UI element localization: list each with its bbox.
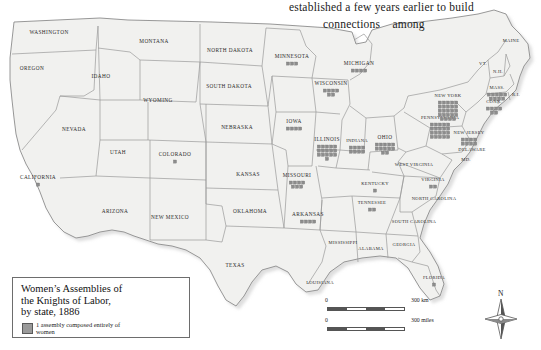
scale-km-label: 300 km [411,297,429,303]
assembly-marker [495,111,498,114]
assembly-marker [434,135,437,138]
assembly-marker [173,160,176,163]
assembly-marker [486,107,489,110]
assembly-marker [434,185,437,188]
legend-swatch [22,323,33,334]
assembly-marker [37,183,40,186]
state-label: N.H. [493,69,503,74]
assembly-markers [173,160,176,163]
state-mississippi: MISSISSIPPI [329,240,358,245]
assembly-marker [455,101,458,104]
assembly-marker [336,89,339,92]
assembly-marker [325,157,328,160]
scale-bar-km-bar [327,307,405,311]
assembly-marker [330,149,333,152]
state-louisiana: LOUISIANA [306,280,334,285]
assembly-marker [309,220,312,223]
assembly-marker [325,149,328,152]
assembly-marker [446,109,449,112]
assembly-marker [286,127,289,130]
assembly-marker [379,143,382,146]
assembly-marker [465,142,468,145]
assembly-marker [375,147,378,150]
assembly-marker [300,220,303,223]
state-label: ARIZONA [102,208,129,214]
state-label: FLORIDA [423,275,445,280]
assembly-marker [327,89,330,92]
assembly-marker [330,145,333,148]
assembly-marker [368,208,371,211]
state-label: MINNESOTA [275,53,309,59]
caption-line-1: established a few years earlier to build [289,1,474,13]
assembly-marker [286,62,289,65]
state-label: COLORADO [159,151,192,157]
state-label: R.I. [512,92,520,97]
state-label: WYOMING [143,97,173,103]
assembly-marker [353,146,356,149]
assembly-marker [295,127,298,130]
state-label: NORTH CAROLINA [412,196,457,201]
assembly-marker [321,153,324,156]
state-label: CONN. [486,99,502,104]
scale-bar-km: 0 300 km [327,304,437,318]
assembly-marker [442,101,445,104]
state-label: KENTUCKY [361,181,389,186]
state-label: NEW MEXICO [151,214,189,220]
state-label: DELAWARE [458,147,485,152]
assembly-marker [451,105,454,108]
assembly-marker [291,185,294,188]
assembly-marker [438,109,441,112]
assembly-marker [451,113,454,116]
state-label: SOUTH CAROLINA [392,219,437,224]
state-label: NEBRASKA [221,124,253,130]
state-label: NORTH DAKOTA [207,47,253,53]
assembly-marker [495,93,498,96]
scale-bar-miles-bar [327,327,405,331]
landmass [10,10,530,306]
state-label: OREGON [20,65,44,71]
assembly-marker [360,69,363,72]
state-new-mexico: NEW MEXICO [151,214,189,220]
assembly-marker [447,135,450,138]
state-label: ILLINOIS [314,136,340,142]
state-texas: TEXAS [225,262,244,268]
assembly-marker [487,93,490,96]
state-south-dakota: SOUTH DAKOTA [206,83,252,89]
state-md: MD. [461,157,470,162]
state-label: MD. [461,157,470,162]
assembly-marker [442,109,445,112]
scale-bar: 0 300 km 0 300 miles [327,304,437,338]
assembly-markers [432,283,435,286]
assembly-marker [447,127,450,130]
assembly-marker [293,181,296,184]
assembly-marker [443,131,446,134]
assembly-marker [430,135,433,138]
assembly-marker [434,131,437,134]
state-label: CALIFORNIA [20,174,56,180]
assembly-marker [289,181,292,184]
assembly-marker [291,62,294,65]
assembly-marker [470,142,473,145]
assembly-marker [500,93,503,96]
state-label: NEW JERSEY [454,130,485,135]
assembly-marker [490,111,493,114]
state-new-york: NEW YORK [435,93,462,120]
assembly-marker [442,105,445,108]
state-nebraska: NEBRASKA [221,124,253,130]
state-label: ARKANSAS [292,211,324,217]
assembly-marker [323,89,326,92]
assembly-marker [304,220,307,223]
assembly-marker [438,127,441,130]
assembly-marker [379,147,382,150]
state-label: LOUISIANA [306,280,334,285]
assembly-marker [313,220,316,223]
assembly-marker [434,127,437,130]
state-georgia: GEORGIA [393,242,416,247]
assembly-marker [443,135,446,138]
assembly-markers [37,183,40,186]
assembly-marker [470,138,473,141]
assembly-marker [455,109,458,112]
state-label: VIRGINIA [421,177,445,182]
state-delaware: DELAWARE [458,147,485,152]
assembly-marker [332,93,335,96]
